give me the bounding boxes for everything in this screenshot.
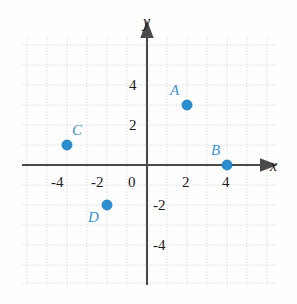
plot-background — [0, 0, 297, 304]
coordinate-plane — [0, 0, 297, 304]
x-tick-label-neg4: -4 — [51, 175, 64, 190]
y-tick-label-neg4: -4 — [153, 238, 166, 253]
point-label-a: A — [170, 83, 179, 98]
point-c — [62, 140, 72, 150]
y-tick-label-4: 4 — [129, 78, 137, 93]
x-tick-label-4: 4 — [222, 175, 230, 190]
point-b — [222, 160, 232, 170]
x-tick-label-2: 2 — [182, 175, 190, 190]
x-axis-label: x — [270, 158, 277, 174]
point-a — [182, 100, 192, 110]
point-label-b: B — [211, 143, 220, 158]
y-axis-label: y — [143, 14, 150, 30]
origin-label: 0 — [128, 175, 136, 190]
point-label-c: C — [72, 123, 82, 138]
point-label-d: D — [88, 210, 99, 225]
point-d — [102, 200, 112, 210]
x-tick-label-neg2: -2 — [91, 175, 104, 190]
y-tick-label-2: 2 — [129, 118, 137, 133]
y-tick-label-neg2: -2 — [153, 198, 166, 213]
